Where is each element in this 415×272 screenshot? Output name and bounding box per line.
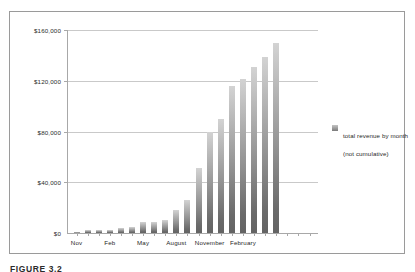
x-axis-label: November bbox=[195, 239, 225, 246]
bar-slot bbox=[260, 30, 271, 233]
bar-slot bbox=[160, 30, 171, 233]
y-axis-label: $80,000 bbox=[38, 128, 61, 135]
bar-slot: Nov bbox=[71, 30, 82, 233]
bar-slot bbox=[126, 30, 137, 233]
bar[interactable] bbox=[184, 200, 190, 233]
y-axis-label: $0 bbox=[54, 230, 61, 237]
x-axis-tick bbox=[265, 233, 266, 236]
x-axis-tick bbox=[110, 233, 111, 236]
chart-frame: $0$40,000$80,000$120,000$160,000 NovFebM… bbox=[9, 11, 405, 254]
x-axis-tick bbox=[77, 233, 78, 236]
x-axis-tick bbox=[199, 233, 200, 236]
bar[interactable] bbox=[229, 86, 235, 233]
bar[interactable] bbox=[207, 132, 213, 234]
legend-label-line2: (not cumulative) bbox=[343, 150, 389, 157]
bar[interactable] bbox=[196, 168, 202, 233]
x-axis-tick bbox=[132, 233, 133, 236]
bar[interactable] bbox=[162, 220, 168, 233]
bar-slot bbox=[271, 30, 282, 233]
bar[interactable] bbox=[262, 57, 268, 233]
bar-slot: Feb bbox=[104, 30, 115, 233]
x-axis-tick bbox=[88, 233, 89, 236]
x-axis-tick bbox=[254, 233, 255, 236]
x-axis-label: Nov bbox=[71, 239, 82, 246]
bar-slot bbox=[115, 30, 126, 233]
bars-group: NovFebMayAugustNovemberFebruary bbox=[68, 30, 318, 233]
bar-slot bbox=[193, 30, 204, 233]
x-axis-label: Feb bbox=[104, 239, 115, 246]
plot-area: $0$40,000$80,000$120,000$160,000 NovFebM… bbox=[67, 30, 318, 234]
bar[interactable] bbox=[140, 222, 146, 233]
legend-swatch-icon bbox=[332, 125, 338, 131]
x-axis-tick bbox=[276, 233, 277, 236]
bar-slot bbox=[149, 30, 160, 233]
legend-label-line1: total revenue by month bbox=[343, 132, 408, 139]
bar-slot bbox=[282, 30, 293, 233]
x-axis-tick bbox=[99, 233, 100, 236]
bar-slot: August bbox=[171, 30, 182, 233]
bar-slot: November bbox=[204, 30, 215, 233]
x-axis-tick bbox=[232, 233, 233, 236]
y-axis-label: $40,000 bbox=[38, 179, 61, 186]
x-axis-tick bbox=[121, 233, 122, 236]
bar[interactable] bbox=[218, 119, 224, 233]
figure-container: $0$40,000$80,000$120,000$160,000 NovFebM… bbox=[0, 0, 415, 272]
bar-slot: February bbox=[237, 30, 248, 233]
y-axis-label: $160,000 bbox=[34, 27, 61, 34]
bar-slot bbox=[249, 30, 260, 233]
bar[interactable] bbox=[251, 67, 257, 233]
x-axis-tick bbox=[187, 233, 188, 236]
legend-label: total revenue by month (not cumulative) bbox=[343, 124, 408, 160]
x-axis-tick bbox=[165, 233, 166, 236]
x-axis-label: August bbox=[166, 239, 186, 246]
figure-caption: FIGURE 3.2 bbox=[10, 264, 62, 272]
x-axis-tick bbox=[154, 233, 155, 236]
x-axis-tick bbox=[210, 233, 211, 236]
x-axis-tick bbox=[310, 233, 311, 236]
bar-slot bbox=[82, 30, 93, 233]
x-axis-label: May bbox=[137, 239, 149, 246]
bar-slot bbox=[182, 30, 193, 233]
x-axis-tick bbox=[221, 233, 222, 236]
x-axis-tick bbox=[176, 233, 177, 236]
x-axis-tick bbox=[287, 233, 288, 236]
x-axis-label: February bbox=[230, 239, 256, 246]
bar[interactable] bbox=[240, 79, 246, 233]
x-axis-tick bbox=[143, 233, 144, 236]
x-axis-tick bbox=[298, 233, 299, 236]
bar[interactable] bbox=[273, 43, 279, 233]
bar-slot: May bbox=[138, 30, 149, 233]
bar-slot bbox=[215, 30, 226, 233]
bar-slot bbox=[93, 30, 104, 233]
bar[interactable] bbox=[173, 210, 179, 233]
bar[interactable] bbox=[151, 222, 157, 233]
bar-slot bbox=[293, 30, 304, 233]
bar-slot bbox=[304, 30, 315, 233]
y-axis-label: $120,000 bbox=[34, 77, 61, 84]
bar-slot bbox=[226, 30, 237, 233]
chart-legend: total revenue by month (not cumulative) bbox=[332, 124, 408, 160]
x-axis-tick bbox=[243, 233, 244, 236]
